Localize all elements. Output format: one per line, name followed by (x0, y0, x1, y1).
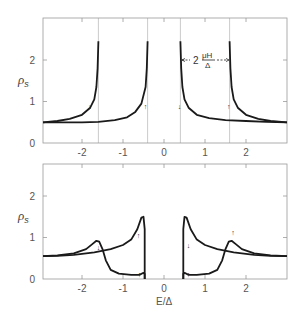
x-tick-label: 2 (243, 283, 249, 294)
x-tick-label: 0 (161, 147, 167, 158)
spin-down-arrow-icon: ↓ (187, 242, 191, 249)
y-tick-label: 1 (29, 232, 35, 243)
x-tick-label: 1 (202, 283, 208, 294)
x-tick-label: 1 (202, 147, 208, 158)
spin-up-arrow-icon: ↑ (187, 271, 191, 278)
y-axis-label: ρs (17, 208, 29, 225)
annotation-prefix: 2 (193, 55, 199, 66)
density-curve (43, 41, 98, 122)
density-curve (183, 217, 287, 279)
x-tick-label: 2 (243, 147, 249, 158)
annotation-denominator: Δ (205, 61, 211, 70)
spin-up-arrow-icon: ↑ (137, 232, 141, 239)
y-tick-label: 1 (29, 96, 35, 107)
vertical-reference-lines (98, 18, 229, 143)
density-curve (183, 241, 287, 279)
plot-frame (43, 18, 287, 143)
spin-down-arrow-icon: ↓ (178, 103, 182, 110)
x-axis-label: E/Δ (156, 296, 172, 307)
spin-up-arrow-icon: ↑ (144, 103, 148, 110)
y-tick-label: 2 (29, 191, 35, 202)
density-curve (43, 241, 145, 279)
spin-up-arrow-icon: ↑ (231, 229, 235, 236)
y-tick-label: 2 (29, 55, 35, 66)
x-tick-label: -2 (78, 147, 87, 158)
y-tick-label: 0 (29, 138, 35, 149)
spin-arrows: ↓↑↓↑ (88, 103, 231, 110)
density-curve (180, 41, 287, 122)
curves (43, 217, 287, 279)
density-curve (43, 217, 145, 279)
plot-frame (43, 164, 287, 279)
y-tick-label: 0 (29, 274, 35, 285)
spin-down-arrow-icon: ↓ (97, 244, 101, 251)
x-tick-label: 0 (161, 283, 167, 294)
spin-down-arrow-icon: ↓ (88, 103, 92, 110)
x-tick-label: -2 (78, 283, 87, 294)
x-tick-label: -1 (119, 147, 128, 158)
density-curve (43, 41, 148, 122)
bottom-panel: -2-1012012 ↓↑↑↓↑↑ ρs E/Δ (17, 164, 287, 307)
x-tick-label: -1 (119, 283, 128, 294)
top-panel: -2-1012012 ↓↑↓↑ ρs 2 μH Δ (17, 18, 287, 158)
figure: -2-1012012 ↓↑↓↑ ρs 2 μH Δ -2-1012012 ↓↑↑… (0, 0, 301, 319)
spin-up-arrow-icon: ↑ (227, 103, 231, 110)
curves (43, 41, 287, 122)
spin-up-arrow-icon: ↑ (138, 271, 142, 278)
y-axis-label: ρs (17, 72, 29, 89)
zeeman-splitting-annotation: 2 μH Δ (182, 51, 229, 70)
density-curve (230, 41, 287, 122)
annotation-numerator: μH (202, 51, 213, 60)
axis-ticks: -2-1012012 (29, 164, 287, 294)
axis-ticks: -2-1012012 (29, 18, 287, 158)
